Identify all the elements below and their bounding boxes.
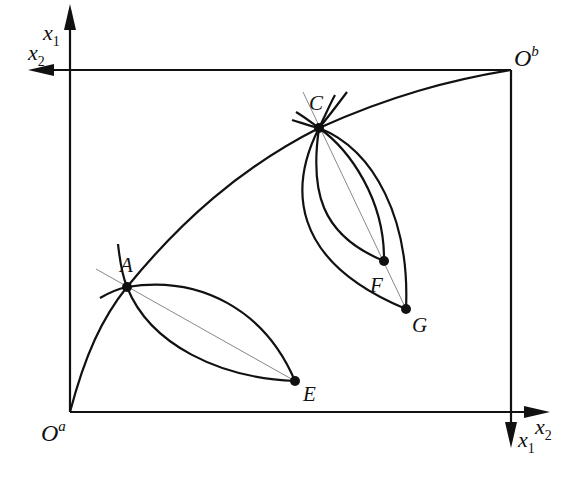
point-A — [122, 282, 132, 292]
indifference-curve-b-through-A — [100, 285, 295, 381]
label-C: C — [309, 91, 324, 115]
axis-labels: x1 x2 x2 x1 — [27, 20, 552, 456]
axis-label-x1-bottom: x1 — [517, 427, 535, 456]
label-E: E — [302, 382, 316, 406]
lens-C-F-G — [292, 92, 406, 309]
label-G: G — [412, 313, 427, 337]
point-labels: A C E F G — [118, 91, 427, 406]
axis-label-x1-top: x1 — [42, 20, 60, 49]
axis-label-x2-bottom: x2 — [534, 414, 552, 443]
point-G — [401, 304, 411, 314]
x1-arrow-down-icon — [505, 422, 517, 448]
origin-labels: Oa Ob — [41, 43, 539, 446]
point-E — [290, 376, 300, 386]
point-F — [379, 256, 389, 266]
label-A: A — [118, 253, 133, 277]
edgeworth-box-diagram: A C E F G Oa Ob x1 x2 x2 x1 — [0, 0, 586, 479]
label-F: F — [369, 273, 383, 297]
x1-arrow-up-icon — [64, 4, 76, 30]
point-C — [314, 123, 324, 133]
origin-b-label: Ob — [514, 43, 539, 71]
indifference-curve-outer-left-C-G — [302, 128, 406, 309]
origin-a-label: Oa — [41, 418, 66, 446]
guide-lines — [96, 92, 406, 381]
contract-curve — [70, 70, 511, 412]
